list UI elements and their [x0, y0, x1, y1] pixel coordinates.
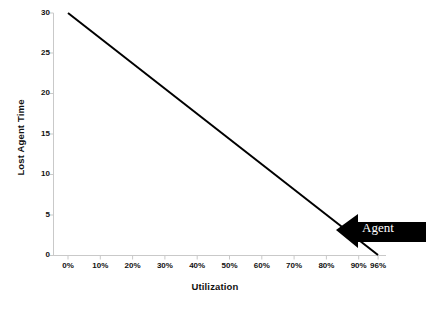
x-tick-label: 30%	[147, 262, 183, 270]
x-tick-label: 0%	[50, 262, 86, 270]
x-tick-label: 10%	[82, 262, 118, 270]
y-tick-label: 20	[24, 89, 50, 97]
data-series-line	[68, 13, 378, 255]
x-axis-ticks	[68, 256, 378, 260]
y-tick-label: 25	[24, 49, 50, 57]
x-tick-label: 50%	[212, 262, 248, 270]
x-tick-label: 40%	[179, 262, 215, 270]
x-tick-label: 70%	[276, 262, 312, 270]
y-tick-label: 5	[24, 211, 50, 219]
x-tick-label: 20%	[115, 262, 151, 270]
agent-callout-label: Agent	[362, 220, 420, 235]
x-axis-tick-labels: 0% 10% 20% 30% 40% 50% 60% 70% 80% 90% 9…	[0, 262, 430, 276]
y-axis-title: Lost Agent Time	[15, 78, 26, 198]
y-tick-label: 15	[24, 130, 50, 138]
agent-arrow-callout: Agent	[336, 212, 428, 248]
x-tick-label: 96%	[360, 262, 396, 270]
x-tick-label: 60%	[244, 262, 280, 270]
y-tick-label: 10	[24, 170, 50, 178]
x-axis-title: Utilization	[60, 281, 370, 292]
y-tick-label: 0	[24, 251, 50, 259]
x-tick-label: 80%	[308, 262, 344, 270]
y-axis-ticks	[50, 13, 54, 256]
chart-container: 0 5 10 15 20 25 30 0% 10% 20% 30% 40% 50…	[0, 0, 430, 309]
y-tick-label: 30	[24, 9, 50, 17]
